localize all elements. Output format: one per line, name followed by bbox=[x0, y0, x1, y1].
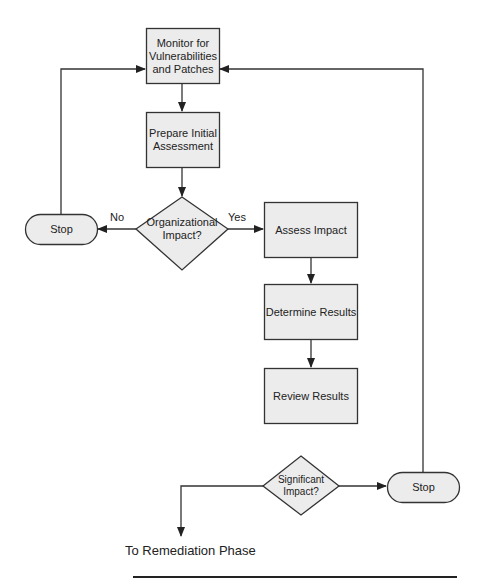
prepare-line-2: Assessment bbox=[153, 140, 213, 153]
edge-stop-left-loop bbox=[61, 69, 145, 214]
prepare-label: Prepare Initial Assessment bbox=[146, 112, 220, 168]
review-label: Review Results bbox=[264, 368, 358, 424]
monitor-label: Monitor for Vulnerabilities and Patches bbox=[146, 28, 220, 84]
monitor-line-2: Vulnerabilities bbox=[149, 50, 217, 63]
sig-impact-line-1: Significant bbox=[278, 474, 324, 486]
org-impact-label: Organizational Impact? bbox=[136, 215, 228, 243]
assess-label: Assess Impact bbox=[264, 202, 358, 258]
edge-label-yes: Yes bbox=[228, 211, 246, 223]
stop-left-label: Stop bbox=[25, 214, 98, 245]
monitor-line-3: and Patches bbox=[152, 63, 213, 76]
determine-label: Determine Results bbox=[264, 284, 358, 340]
org-impact-line-2: Impact? bbox=[162, 229, 201, 242]
remediation-caption: To Remediation Phase bbox=[125, 543, 256, 558]
stop-right-label: Stop bbox=[387, 472, 460, 503]
sig-impact-line-2: Impact? bbox=[283, 486, 319, 498]
monitor-line-1: Monitor for bbox=[157, 37, 210, 50]
edge-sig-remediation bbox=[181, 486, 263, 536]
prepare-line-1: Prepare Initial bbox=[149, 127, 217, 140]
sig-impact-label: Significant Impact? bbox=[263, 473, 339, 499]
edge-label-no: No bbox=[110, 211, 124, 223]
org-impact-line-1: Organizational bbox=[147, 216, 218, 229]
